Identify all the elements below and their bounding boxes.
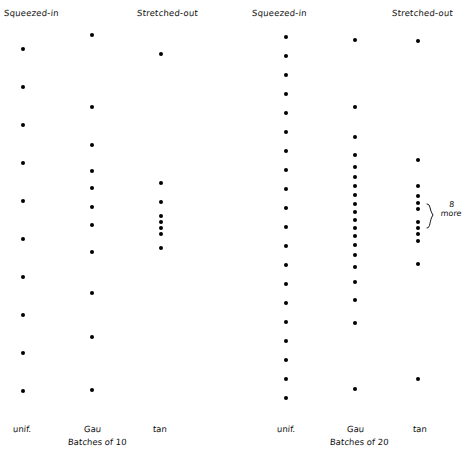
data-point: [353, 165, 357, 169]
data-point: [416, 220, 420, 224]
data-point: [284, 396, 288, 400]
data-point: [353, 253, 357, 257]
column-footer-cauchy-batches-10: tan: [153, 424, 168, 434]
data-point: [159, 181, 163, 185]
column-footer-cauchy-batches-20: tan: [413, 424, 428, 434]
data-point: [90, 291, 94, 295]
data-point: [284, 206, 288, 210]
data-point: [159, 220, 163, 224]
group-caption-0: Batches of 10: [68, 437, 127, 447]
data-point: [21, 389, 25, 393]
data-point: [284, 339, 288, 343]
curly-brace-icon: [425, 202, 437, 232]
data-point: [284, 35, 288, 39]
data-point: [416, 239, 420, 243]
data-point: [353, 105, 357, 109]
data-point: [353, 38, 357, 42]
data-point: [90, 143, 94, 147]
data-point: [159, 226, 163, 230]
column-footer-uniform-batches-20: unif.: [277, 424, 296, 434]
data-point: [21, 237, 25, 241]
data-point: [284, 54, 288, 58]
column-footer-gaussian-batches-10: Gau: [84, 424, 102, 434]
data-point: [21, 351, 25, 355]
data-point: [284, 73, 288, 77]
data-point: [159, 246, 163, 250]
data-point: [284, 282, 288, 286]
data-point: [416, 39, 420, 43]
data-point: [353, 226, 357, 230]
data-point: [416, 158, 420, 162]
data-point: [416, 207, 420, 211]
data-point: [21, 275, 25, 279]
data-point: [90, 205, 94, 209]
data-point: [21, 313, 25, 317]
column-footer-gaussian-batches-20: Gau: [347, 424, 365, 434]
group-caption-1: Batches of 20: [330, 437, 389, 447]
data-point: [159, 52, 163, 56]
data-point: [284, 149, 288, 153]
data-point: [284, 187, 288, 191]
data-point: [284, 225, 288, 229]
data-point: [90, 388, 94, 392]
data-point: [90, 223, 94, 227]
data-point: [416, 262, 420, 266]
data-point: [353, 153, 357, 157]
data-point: [90, 33, 94, 37]
data-point: [353, 202, 357, 206]
data-point: [353, 218, 357, 222]
data-point: [353, 184, 357, 188]
data-point: [21, 85, 25, 89]
data-point: [284, 130, 288, 134]
data-point: [284, 301, 288, 305]
annotation-word: more: [440, 209, 461, 218]
data-point: [416, 232, 420, 236]
data-point: [353, 234, 357, 238]
column-footer-uniform-batches-10: unif.: [13, 424, 32, 434]
dotplot-figure: Squeezed-inStretched-outSqueezed-inStret…: [0, 0, 462, 452]
data-point: [353, 193, 357, 197]
data-point: [90, 250, 94, 254]
data-point: [353, 243, 357, 247]
data-point: [416, 226, 420, 230]
column-header-3: Stretched-out: [392, 8, 454, 18]
data-point: [353, 210, 357, 214]
data-point: [353, 175, 357, 179]
data-point: [90, 169, 94, 173]
data-point: [284, 92, 288, 96]
data-point: [159, 214, 163, 218]
eight-more-label: 8more: [440, 200, 462, 218]
column-header-0: Squeezed-in: [4, 8, 59, 18]
data-point: [416, 194, 420, 198]
data-point: [21, 123, 25, 127]
data-point: [353, 298, 357, 302]
data-point: [284, 168, 288, 172]
data-point: [21, 47, 25, 51]
data-point: [90, 335, 94, 339]
column-header-2: Squeezed-in: [252, 8, 307, 18]
data-point: [90, 186, 94, 190]
data-point: [21, 161, 25, 165]
data-point: [284, 358, 288, 362]
data-point: [353, 280, 357, 284]
data-point: [353, 135, 357, 139]
data-point: [159, 200, 163, 204]
data-point: [284, 111, 288, 115]
data-point: [353, 321, 357, 325]
annotation-count: 8: [441, 200, 462, 209]
column-header-1: Stretched-out: [137, 8, 199, 18]
data-point: [284, 377, 288, 381]
data-point: [90, 105, 94, 109]
data-point: [284, 263, 288, 267]
data-point: [416, 201, 420, 205]
data-point: [416, 377, 420, 381]
data-point: [416, 184, 420, 188]
data-point: [284, 320, 288, 324]
data-point: [159, 232, 163, 236]
data-point: [21, 199, 25, 203]
data-point: [353, 265, 357, 269]
data-point: [353, 387, 357, 391]
data-point: [284, 244, 288, 248]
